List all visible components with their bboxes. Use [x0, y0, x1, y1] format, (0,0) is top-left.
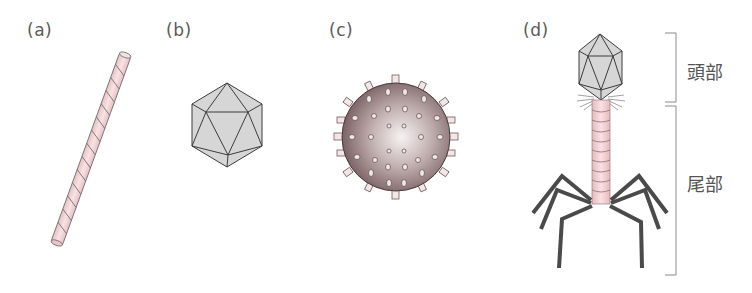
helical-rod-virus: [50, 51, 131, 248]
tail-label: 尾部: [687, 170, 723, 196]
head-bracket: [665, 33, 676, 102]
phage-tail: [592, 100, 610, 204]
virus-diagram: [0, 0, 752, 293]
icosahedral-virus: [192, 83, 262, 167]
spiked-sphere-virus: [334, 75, 458, 199]
phage-head: [579, 34, 622, 100]
bacteriophage: [533, 34, 667, 268]
tail-bracket: [665, 106, 676, 275]
head-label: 頭部: [687, 58, 723, 84]
